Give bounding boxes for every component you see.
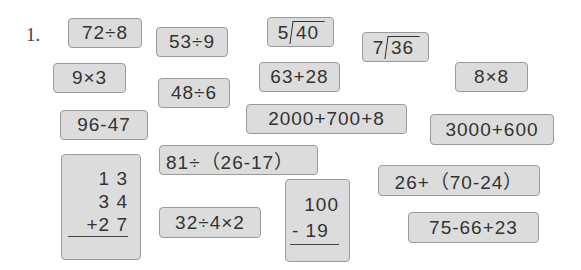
minuend: 100	[304, 192, 339, 218]
expression-text: 3000+600	[445, 119, 538, 141]
addend-3: +2 7	[86, 213, 128, 236]
dividend: 36	[391, 37, 414, 59]
expression-text: 2000+700+8	[268, 108, 385, 130]
expression-card-53-div-9: 53÷9	[156, 27, 228, 57]
expression-text: 53÷9	[169, 31, 215, 53]
expression-text: 81÷（26-17）	[166, 147, 294, 174]
expression-text: 63+28	[270, 66, 328, 88]
divisor: 5	[278, 22, 290, 44]
expression-text: 9×3	[72, 67, 107, 89]
expression-card-48-div-6: 48÷6	[158, 78, 230, 108]
expression-card-8-times-8: 8×8	[455, 62, 528, 92]
expression-text: 75-66+23	[429, 217, 518, 239]
vertical-subtraction-card: 100 - 19	[285, 179, 350, 262]
expression-text: 8×8	[474, 66, 509, 88]
expression-card-3000-plus-600: 3000+600	[430, 114, 554, 145]
expression-card-26-plus-paren: 26+（70-24）	[378, 165, 540, 196]
dividend: 40	[296, 22, 319, 44]
vertical-addition-card: 1 3 3 4 +2 7	[61, 154, 141, 260]
long-division-card-7-36: 736	[362, 32, 429, 62]
expression-card-96-minus-47: 96-47	[60, 110, 148, 140]
subtrahend: - 19	[292, 218, 329, 244]
expression-text: 48÷6	[171, 82, 217, 104]
expression-text: 96-47	[77, 114, 131, 136]
expression-card-75-minus-66-plus-23: 75-66+23	[408, 212, 539, 243]
expression-card-2000-plus-700-plus-8: 2000+700+8	[246, 104, 407, 134]
difference-line	[290, 244, 339, 245]
expression-text: 32÷4×2	[175, 212, 245, 234]
addend-2: 3 4	[99, 190, 128, 213]
expression-text: 26+（70-24）	[395, 167, 524, 194]
addend-1: 1 3	[99, 167, 128, 190]
long-division-card-5-40: 540	[267, 17, 334, 47]
divisor: 7	[373, 37, 385, 59]
sum-line	[68, 236, 128, 237]
expression-card-9-times-3: 9×3	[53, 63, 126, 93]
expression-card-63-plus-28: 63+28	[259, 62, 340, 92]
expression-text: 72÷8	[82, 22, 128, 44]
expression-card-81-div-paren: 81÷（26-17）	[159, 145, 318, 175]
expression-card-72-div-8: 72÷8	[68, 18, 142, 48]
question-number: 1.	[26, 24, 40, 46]
expression-card-32-div-4-times-2: 32÷4×2	[159, 207, 261, 238]
